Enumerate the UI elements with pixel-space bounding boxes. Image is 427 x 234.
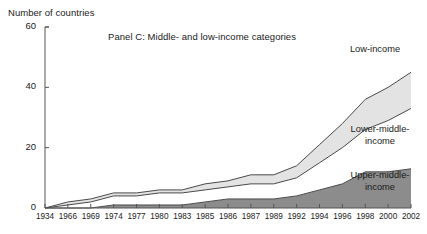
x-tick-1983: 1983 [173, 212, 191, 221]
x-tick-2002: 2002 [402, 212, 420, 221]
panel-title: Panel C: Middle- and low-income categori… [108, 31, 296, 42]
x-tick-1998: 1998 [356, 212, 374, 221]
x-tick-1974: 1974 [105, 212, 123, 221]
y-tick-40: 40 [14, 80, 36, 91]
series-label-low-income: Low-income [350, 44, 400, 56]
x-tick-1985: 1985 [196, 212, 214, 221]
x-tick-1966: 1966 [59, 212, 77, 221]
x-tick-1992: 1992 [288, 212, 306, 221]
x-tick-1986: 1986 [219, 212, 237, 221]
y-axis-title: Number of countries [8, 7, 95, 18]
x-tick-1934: 1934 [36, 212, 54, 221]
x-tick-1989: 1989 [265, 212, 283, 221]
x-tick-1977: 1977 [127, 212, 145, 221]
y-tick-0: 0 [14, 201, 36, 212]
x-tick-1987: 1987 [242, 212, 260, 221]
x-tick-1980: 1980 [150, 212, 168, 221]
series-label-lower-middle-income: Lower-middle- income [351, 124, 410, 147]
x-tick-1994: 1994 [310, 212, 328, 221]
chart-panel-c: Number of countries Panel C: Middle- and… [0, 0, 427, 234]
series-label-upper-middle-income: Upper-middle- income [351, 170, 410, 193]
x-tick-1996: 1996 [333, 212, 351, 221]
y-tick-60: 60 [14, 20, 36, 31]
y-tick-20: 20 [14, 141, 36, 152]
x-tick-2000: 2000 [379, 212, 397, 221]
x-tick-1969: 1969 [82, 212, 100, 221]
